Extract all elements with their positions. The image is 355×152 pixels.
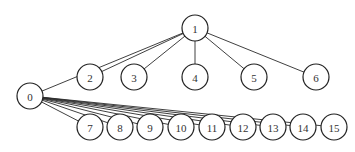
tree-diagram: 1023456789101112131415 [0, 0, 355, 152]
node-label: 11 [207, 122, 218, 134]
node-0: 0 [17, 83, 43, 109]
node-13: 13 [260, 114, 286, 140]
node-label: 10 [176, 122, 188, 134]
node-label: 14 [298, 122, 310, 134]
node-7: 7 [77, 114, 103, 140]
node-10: 10 [168, 114, 194, 140]
node-5: 5 [241, 64, 267, 90]
node-label: 13 [268, 122, 280, 134]
edge-1-0 [30, 28, 195, 96]
node-4: 4 [182, 64, 208, 90]
node-6: 6 [303, 64, 329, 90]
node-14: 14 [290, 114, 316, 140]
node-label: 2 [87, 72, 93, 84]
node-label: 12 [238, 122, 249, 134]
node-3: 3 [121, 64, 147, 90]
node-11: 11 [199, 114, 225, 140]
node-8: 8 [107, 114, 133, 140]
node-2: 2 [77, 64, 103, 90]
node-label: 3 [131, 72, 137, 84]
node-15: 15 [321, 114, 347, 140]
node-label: 15 [329, 122, 341, 134]
node-9: 9 [137, 114, 163, 140]
node-12: 12 [230, 114, 256, 140]
node-label: 6 [313, 72, 319, 84]
node-label: 9 [147, 122, 153, 134]
node-label: 4 [192, 72, 198, 84]
node-label: 1 [192, 23, 198, 35]
node-label: 0 [27, 91, 33, 103]
node-label: 5 [251, 72, 257, 84]
node-1: 1 [182, 15, 208, 41]
node-label: 8 [117, 122, 123, 134]
node-label: 7 [87, 122, 93, 134]
